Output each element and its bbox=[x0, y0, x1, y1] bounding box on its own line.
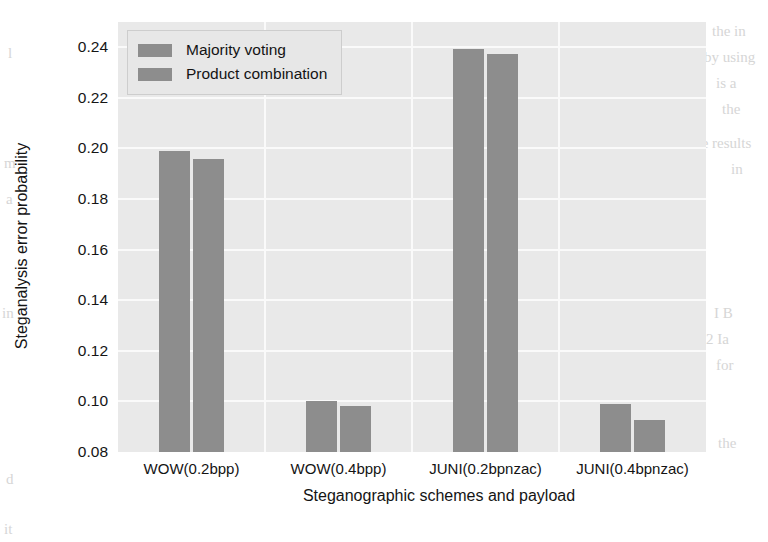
x-axis-tick-label: WOW(0.2bpp) bbox=[144, 460, 240, 477]
bar bbox=[453, 49, 484, 452]
x-axis-title: Steganographic schemes and payload bbox=[0, 487, 768, 505]
legend-item: Majority voting bbox=[138, 38, 327, 62]
y-axis-tick-label: 0.22 bbox=[46, 89, 108, 107]
y-axis-tick-label: 0.20 bbox=[46, 139, 108, 157]
bar bbox=[487, 54, 518, 452]
chart-legend: Majority votingProduct combination bbox=[127, 30, 342, 95]
bar bbox=[634, 420, 665, 452]
x-axis-tick-label: JUNI(0.2bpnzac) bbox=[429, 460, 542, 477]
y-axis-tick-label: 0.12 bbox=[46, 342, 108, 360]
bar-chart-figure: Steganalysis error probability 0.080.100… bbox=[0, 0, 768, 542]
y-axis-tick-label: 0.14 bbox=[46, 291, 108, 309]
bar bbox=[193, 159, 224, 452]
x-axis-tick-label: JUNI(0.4bpnzac) bbox=[576, 460, 689, 477]
bar bbox=[340, 406, 371, 452]
y-axis-tick-label: 0.24 bbox=[46, 38, 108, 56]
legend-item: Product combination bbox=[138, 62, 327, 86]
legend-item-label: Majority voting bbox=[186, 41, 286, 59]
legend-swatch-icon bbox=[138, 68, 172, 81]
legend-swatch-icon bbox=[138, 44, 172, 57]
y-axis-title: Steganalysis error probability bbox=[13, 81, 31, 411]
y-axis-tick-label: 0.16 bbox=[46, 241, 108, 259]
bar bbox=[600, 404, 631, 452]
y-axis-tick-label: 0.10 bbox=[46, 392, 108, 410]
y-axis-tick-label: 0.18 bbox=[46, 190, 108, 208]
bar bbox=[159, 151, 190, 452]
gridline-vertical bbox=[411, 22, 413, 452]
x-axis-tick-label: WOW(0.4bpp) bbox=[291, 460, 387, 477]
legend-item-label: Product combination bbox=[186, 65, 327, 83]
y-axis-tick-label: 0.08 bbox=[46, 443, 108, 461]
gridline-vertical bbox=[558, 22, 560, 452]
bar bbox=[306, 401, 337, 452]
